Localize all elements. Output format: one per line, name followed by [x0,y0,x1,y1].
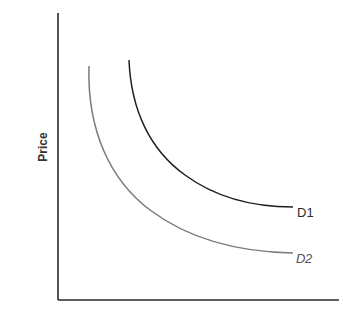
curve-label-d2: D2 [296,251,312,266]
curve-label-d1: D1 [297,205,314,220]
demand-curve-d2 [89,66,293,253]
demand-curve-d1 [129,60,293,207]
y-axis-label: Price [36,129,50,165]
demand-chart [0,0,343,327]
